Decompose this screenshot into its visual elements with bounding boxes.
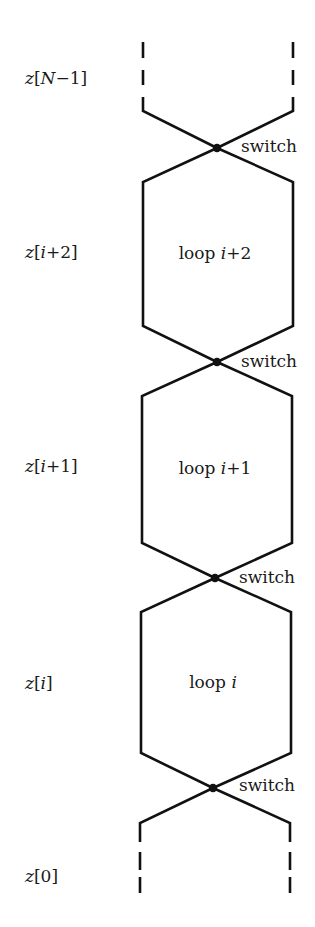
loop-label: loop i+2 <box>179 243 252 263</box>
loop-switch-diagram: switch loop i+2 switch loop i+1 switch l… <box>0 0 315 927</box>
switch-node-3: switch <box>211 567 295 587</box>
switch-label: switch <box>239 567 295 587</box>
switch-label: switch <box>239 775 295 795</box>
switch-label: switch <box>241 351 297 371</box>
loop-label: loop i+1 <box>179 458 252 478</box>
loop-i-plus-2: loop i+2 <box>143 148 293 362</box>
loop-i: loop i <box>141 578 291 788</box>
loop-i-plus-1: loop i+1 <box>142 362 292 578</box>
row-label-z-i-plus-2: z[i+2] <box>24 242 78 262</box>
row-label-z-i: z[i] <box>24 673 53 693</box>
row-label-z-i-plus-1: z[i+1] <box>24 456 78 476</box>
top-continuation <box>143 42 293 148</box>
row-label-z-n-minus-1: z[N−1] <box>24 68 87 88</box>
switch-node-2: switch <box>213 351 297 371</box>
bottom-continuation <box>140 788 290 893</box>
loop-label: loop i <box>189 672 237 692</box>
row-label-z-0: z[0] <box>24 866 58 886</box>
switch-label: switch <box>241 136 297 156</box>
